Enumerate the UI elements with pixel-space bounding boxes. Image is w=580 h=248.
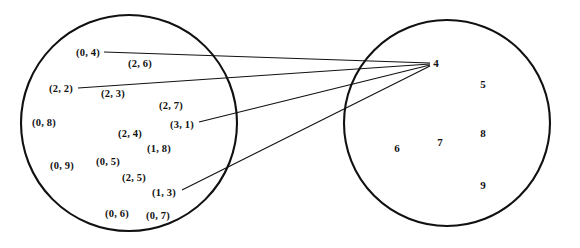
mapping-line [182,66,430,190]
domain-element-5: (0, 8) [32,117,56,128]
domain-element-0: (0, 4) [76,47,100,58]
domain-element-3: (2, 3) [101,88,125,99]
domain-element-4: (2, 7) [159,100,183,111]
domain-element-7: (3, 1) [170,119,194,130]
domain-element-13: (0, 6) [105,208,129,219]
mapping-arrows [78,52,430,190]
codomain-element-5: 9 [480,179,486,191]
domain-element-1: (2, 6) [128,58,152,69]
diagram-svg [0,0,580,248]
codomain-element-0: 4 [433,57,439,69]
codomain-circle [344,20,550,226]
codomain-element-2: 6 [394,142,400,154]
domain-element-9: (0, 9) [50,160,74,171]
codomain-element-1: 5 [480,78,486,90]
domain-element-11: (2, 5) [122,172,146,183]
set-circles [21,15,550,231]
codomain-element-3: 7 [437,136,443,148]
domain-element-2: (2, 2) [49,83,73,94]
domain-element-12: (1, 3) [152,187,176,198]
domain-element-8: (1, 8) [147,143,171,154]
domain-element-10: (0, 5) [96,156,120,167]
diagram-canvas: (0, 4)(2, 6)(2, 2)(2, 3)(2, 7)(0, 8)(2, … [0,0,580,248]
domain-element-14: (0, 7) [146,210,170,221]
mapping-line [104,52,430,63]
codomain-element-4: 8 [480,127,486,139]
domain-element-6: (2, 4) [118,128,142,139]
